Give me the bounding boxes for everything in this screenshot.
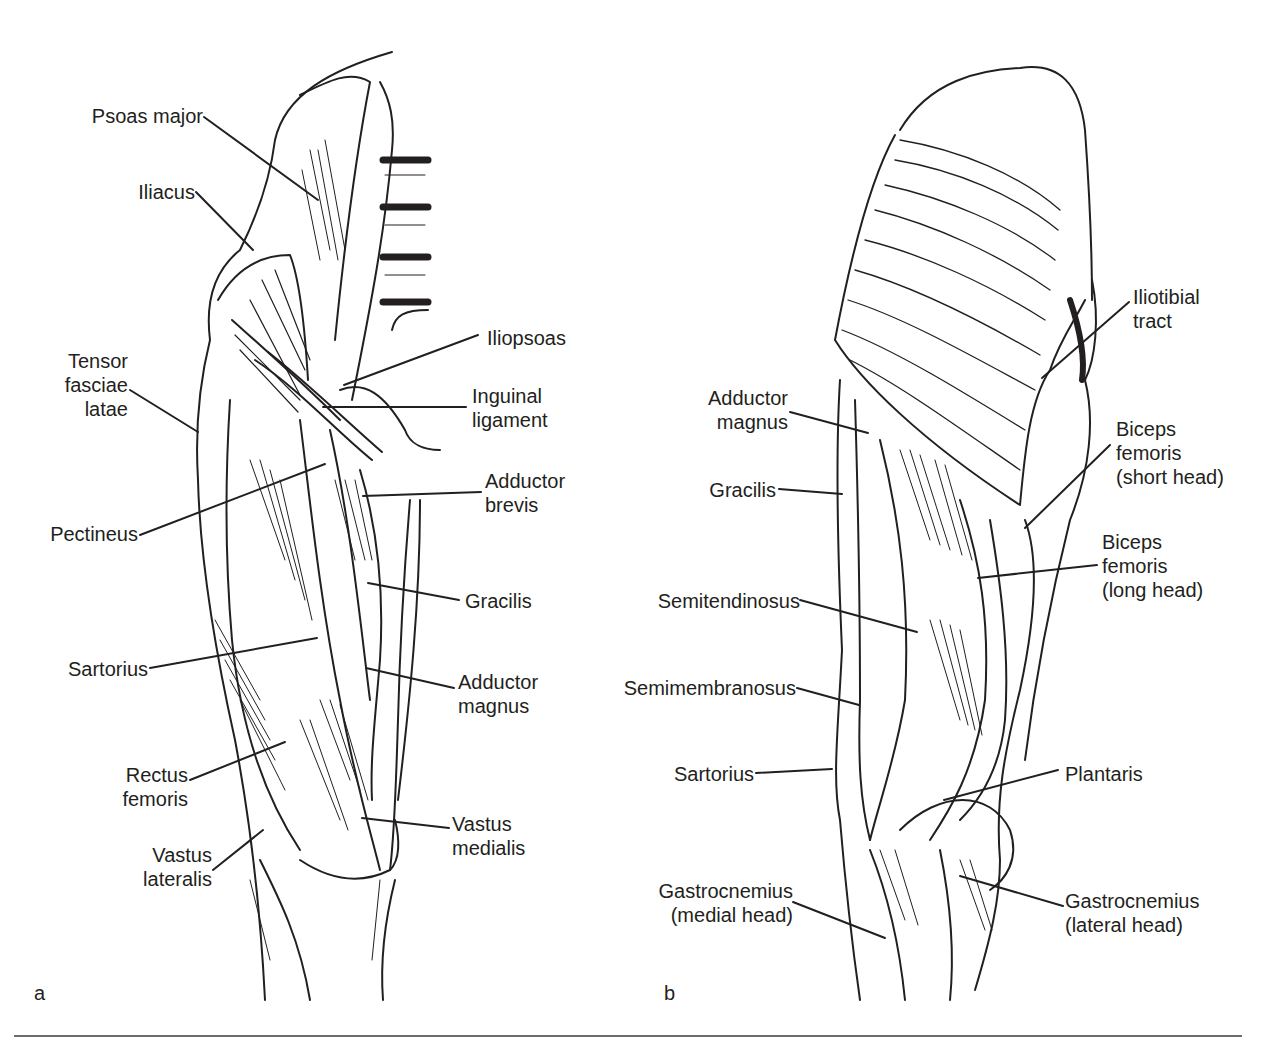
label-semimembranosus: Semimembranosus xyxy=(590,676,796,700)
label-iliacus: Iliacus xyxy=(95,180,195,204)
label-biceps-femoris-long: Biceps femoris (long head) xyxy=(1102,530,1203,602)
label-gracilis-b: Gracilis xyxy=(680,478,776,502)
caption-divider xyxy=(14,1035,1242,1037)
panel-letter-b: b xyxy=(664,982,675,1005)
label-gastrocnemius-lateral: Gastrocnemius (lateral head) xyxy=(1065,889,1200,937)
label-vastus-lateralis: Vastus lateralis xyxy=(110,843,212,891)
label-semitendinosus: Semitendinosus xyxy=(620,589,800,613)
label-iliotibial-tract: Iliotibial tract xyxy=(1133,285,1200,333)
label-pectineus: Pectineus xyxy=(20,522,138,546)
label-gastrocnemius-medial: Gastrocnemius (medial head) xyxy=(630,879,793,927)
label-tensor-fasciae-latae: Tensor fasciae latae xyxy=(30,349,128,421)
label-psoas-major: Psoas major xyxy=(68,104,203,128)
label-inguinal-ligament: Inguinal ligament xyxy=(472,384,548,432)
posterior-thigh-drawing xyxy=(835,67,1096,1000)
label-vastus-medialis: Vastus medialis xyxy=(452,812,525,860)
label-biceps-femoris-short: Biceps femoris (short head) xyxy=(1116,417,1224,489)
label-adductor-magnus-b: Adductor magnus xyxy=(680,386,788,434)
label-adductor-magnus-a: Adductor magnus xyxy=(458,670,538,718)
anatomy-figure: Psoas major Iliacus Tensor fasciae latae… xyxy=(0,0,1270,1048)
label-plantaris: Plantaris xyxy=(1065,762,1143,786)
label-adductor-brevis: Adductor brevis xyxy=(485,469,565,517)
label-iliopsoas: Iliopsoas xyxy=(487,326,566,350)
label-sartorius: Sartorius xyxy=(30,657,148,681)
anterior-thigh-drawing xyxy=(197,52,440,1000)
label-sartorius-b: Sartorius xyxy=(650,762,754,786)
leader-lines-b xyxy=(756,302,1129,938)
label-rectus-femoris: Rectus femoris xyxy=(90,763,188,811)
label-gracilis-a: Gracilis xyxy=(465,589,532,613)
panel-letter-a: a xyxy=(34,982,45,1005)
leader-lines-a xyxy=(130,117,481,870)
